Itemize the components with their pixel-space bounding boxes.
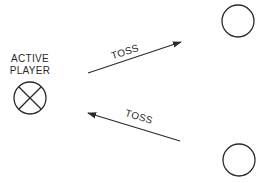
active-player-label-line2: PLAYER — [10, 65, 51, 76]
active-player-label-line1: ACTIVE — [11, 53, 49, 64]
circle-x-icon — [14, 82, 46, 114]
toss-label-outgoing: TOSS — [110, 42, 140, 61]
toss-diagram: ACTIVE PLAYER TOSS TOSS — [0, 0, 264, 183]
player-bottom-right-circle-icon — [223, 144, 255, 176]
player-top-right-circle-icon — [222, 5, 254, 37]
toss-label-incoming: TOSS — [124, 107, 154, 126]
